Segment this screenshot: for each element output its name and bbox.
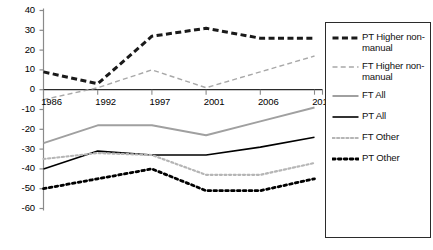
series-line-1 xyxy=(44,56,315,100)
legend-item[interactable]: PT All xyxy=(332,110,426,124)
y-tick-label: 0 xyxy=(5,84,35,94)
legend-swatch-1 xyxy=(332,61,359,73)
legend-swatch-3 xyxy=(332,111,359,123)
legend-swatch-5 xyxy=(332,153,359,165)
x-tick-label: 1986 xyxy=(30,97,74,107)
series-line-3 xyxy=(44,137,315,169)
y-tick-label: 20 xyxy=(5,45,35,55)
chart-figure: 403020100-10-20-30-40-50-60 198619921997… xyxy=(0,0,433,250)
y-tick-label: -40 xyxy=(5,163,35,173)
legend-swatch-2 xyxy=(332,90,359,102)
legend-label: FT Higher non- manual xyxy=(362,60,424,82)
legend-item[interactable]: PT Higher non- manual xyxy=(332,31,426,53)
series-line-0 xyxy=(44,28,315,83)
legend-label: FT Other xyxy=(362,131,399,142)
legend-item-list: PT Higher non- manualFT Higher non- manu… xyxy=(326,23,430,237)
y-tick-label: -60 xyxy=(5,203,35,213)
legend-label: PT Other xyxy=(362,152,400,163)
legend-label: PT Higher non- manual xyxy=(362,31,425,53)
legend-swatch-0 xyxy=(332,32,359,44)
x-tick-label: 1992 xyxy=(84,97,128,107)
plot-svg xyxy=(0,0,325,250)
y-tick-label: -20 xyxy=(5,124,35,134)
series-line-5 xyxy=(44,169,315,191)
x-tick-label: 1997 xyxy=(138,97,182,107)
y-tick-label: -30 xyxy=(5,144,35,154)
legend-label: FT All xyxy=(362,89,385,100)
y-tick-label: 30 xyxy=(5,25,35,35)
plot-area: 403020100-10-20-30-40-50-60 198619921997… xyxy=(0,0,325,250)
legend-label: PT All xyxy=(362,110,386,121)
x-tick-label: 2001 xyxy=(192,97,236,107)
legend-item[interactable]: FT Higher non- manual xyxy=(332,60,426,82)
chart-legend: PT Higher non- manualFT Higher non- manu… xyxy=(325,22,431,238)
legend-swatch-4 xyxy=(332,132,359,144)
y-tick-label: -50 xyxy=(5,183,35,193)
legend-item[interactable]: PT Other xyxy=(332,152,426,166)
y-tick-label: 10 xyxy=(5,64,35,74)
legend-item[interactable]: FT Other xyxy=(332,131,426,145)
x-tick-label: 2006 xyxy=(246,97,290,107)
legend-item[interactable]: FT All xyxy=(332,89,426,103)
y-tick-label: 40 xyxy=(5,5,35,15)
series-line-2 xyxy=(44,108,315,144)
